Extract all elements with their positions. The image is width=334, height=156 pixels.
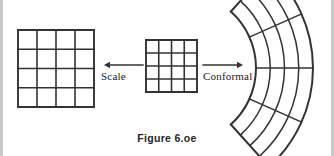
figure-container: Scale Conformal Figure 6.oe: [0, 0, 334, 156]
figure-caption: Figure 6.oe: [0, 132, 334, 144]
scaled-grid: [18, 30, 94, 107]
conformal-label: Conformal: [203, 70, 252, 82]
source-grid: [146, 40, 197, 92]
transform-arrows: [104, 62, 243, 68]
scale-label: Scale: [101, 70, 126, 82]
